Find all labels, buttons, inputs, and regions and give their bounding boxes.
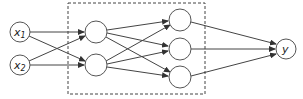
hidden1-node-2 xyxy=(85,54,107,76)
edges-hidden2-output xyxy=(191,22,276,76)
hidden1-node-1 xyxy=(85,21,107,43)
hidden2-node-1 xyxy=(169,9,191,31)
edges-hidden1-hidden2 xyxy=(106,21,170,76)
edges-input-hidden1 xyxy=(29,32,85,65)
output-node-y: y xyxy=(276,39,296,59)
input-node-x1: x1 xyxy=(10,22,30,42)
input-node-x2: x2 xyxy=(10,55,30,75)
hidden2-node-3 xyxy=(169,66,191,88)
neural-network-diagram: x1 x2 y xyxy=(0,0,303,99)
hidden2-node-2 xyxy=(169,38,191,60)
svg-text:y: y xyxy=(281,43,289,56)
